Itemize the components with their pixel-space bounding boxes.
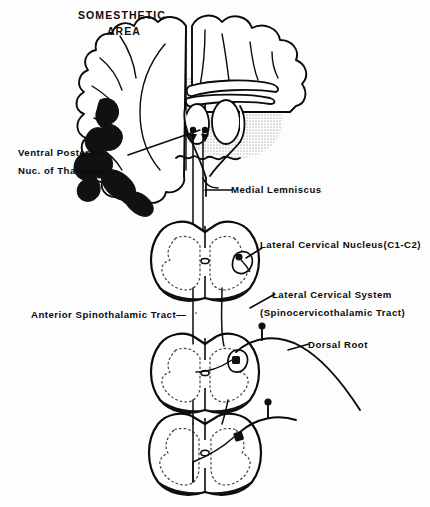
figure-canvas: SOMESTHETIC AREA Ventral Posterior Nuc. …	[0, 0, 430, 507]
label-lateral-cervical-nucleus: Lateral Cervical Nucleus(C1-C2)	[260, 240, 421, 250]
label-vpn-line1: Ventral Posterior	[18, 148, 106, 158]
label-vpn-line2: Nuc. of Thalamus	[18, 166, 106, 176]
label-anterior-spinothalamic-tract: Anterior Spinothalamic Tract—	[31, 310, 186, 320]
label-lateral-cervical-system: Lateral Cervical System (Spinocervicotha…	[272, 290, 405, 318]
label-somesthetic-area-line2: AREA	[78, 26, 166, 37]
label-ventral-posterior-nucleus: Ventral Posterior Nuc. of Thalamus	[18, 148, 106, 176]
label-somesthetic-area-line1: SOMESTHETIC	[78, 10, 166, 21]
label-dorsal-root: Dorsal Root	[308, 340, 368, 350]
label-lcs-line2: (Spinocervicothalamic Tract)	[260, 308, 405, 318]
label-somesthetic-area: SOMESTHETIC AREA	[78, 10, 166, 37]
label-medial-lemniscus: Medial Lemniscus	[231, 185, 322, 195]
label-lcs-line1: Lateral Cervical System	[272, 290, 405, 300]
anatomical-diagram	[0, 0, 430, 507]
